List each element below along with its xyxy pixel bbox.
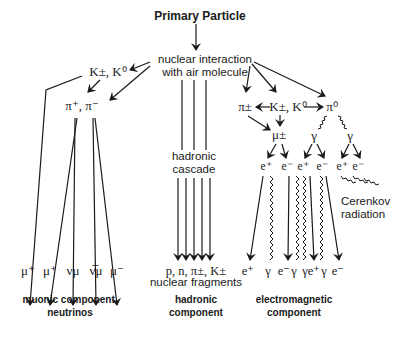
- arrow-to-pair: [305, 144, 312, 158]
- em-gamma-1: γ: [310, 128, 317, 143]
- em-product: e⁺: [308, 264, 321, 278]
- em-product: γ: [290, 264, 297, 278]
- muonic-pions: π⁺, π⁻: [65, 98, 99, 113]
- pair-particle: e⁺: [297, 160, 308, 172]
- em-photon-wave: [296, 176, 299, 260]
- arrow-to-pair: [342, 144, 349, 158]
- pair-particle: e⁻: [352, 160, 363, 172]
- photon-wave: [318, 116, 327, 129]
- em-electron-arrow: [326, 176, 339, 260]
- em-electron-arrow: [250, 176, 263, 260]
- em-kaons: K±, K⁰: [269, 99, 306, 114]
- interaction-label-1: nuclear interaction: [158, 53, 252, 65]
- em-photon-wave: [270, 176, 273, 260]
- muonic-label-1: muonic component,: [23, 294, 118, 305]
- muonic-product: νμ: [67, 263, 80, 278]
- muonic-label-2: neutrinos: [47, 307, 93, 318]
- pair-particle: e⁻: [316, 160, 327, 172]
- em-electron-arrow: [288, 176, 289, 260]
- em-product: e⁻: [278, 264, 291, 278]
- em-product: γ: [320, 264, 327, 278]
- em-label-2: component: [267, 307, 322, 318]
- hadronic-fragments: nuclear fragments: [150, 276, 242, 288]
- arrow-to-pair: [282, 144, 286, 158]
- cerenkov-wave: [364, 178, 379, 185]
- pair-particle: e⁺: [336, 160, 347, 172]
- cerenkov-label-2: radiation: [341, 208, 385, 220]
- arrow-kaons-to-pions: [88, 80, 100, 92]
- interaction-label-2: with air molecule: [161, 66, 248, 78]
- em-product: γ: [264, 264, 271, 278]
- em-label-1: electromagnetic: [256, 294, 333, 305]
- em-pi-charged: π±: [238, 99, 252, 114]
- em-positron-arrow: [310, 176, 314, 260]
- primary-particle-label: Primary Particle: [154, 9, 246, 23]
- muonic-product: μ⁺: [21, 263, 35, 278]
- arrow-to-pair: [353, 144, 360, 158]
- hadronic-label-1: hadronic: [175, 294, 218, 305]
- em-product: e⁻: [332, 264, 345, 278]
- em-gamma-2: γ: [346, 128, 353, 143]
- pair-particle: e⁺: [260, 160, 271, 172]
- muonic-product: μ⁺: [43, 263, 57, 278]
- cascade-label-1: hadronic: [172, 150, 216, 162]
- pair-particle: e⁻: [281, 160, 292, 172]
- muonic-product: ν̅μ: [90, 263, 103, 278]
- muonic-kaons: K±, K⁰: [89, 64, 126, 79]
- cerenkov-label-1: Cerenkov: [341, 195, 390, 207]
- em-product: e⁺: [242, 264, 255, 278]
- arrow-to-pair: [317, 144, 324, 158]
- em-photon-wave: [320, 176, 323, 260]
- cascade-label-2: cascade: [173, 163, 216, 175]
- arrow-pi-to-muon: [248, 116, 270, 130]
- hadronic-label-2: component: [169, 307, 224, 318]
- photon-wave: [338, 116, 347, 129]
- em-pi-neutral: π⁰: [326, 99, 338, 114]
- air-shower-diagram: Primary Particle nuclear interaction wit…: [0, 0, 404, 340]
- em-muon: μ±: [272, 127, 286, 142]
- arrow-to-pair: [268, 144, 276, 158]
- arrow-to-em-kaons: [252, 64, 276, 92]
- em-photon-wave: [303, 176, 306, 260]
- muonic-product: μ⁻: [110, 263, 124, 278]
